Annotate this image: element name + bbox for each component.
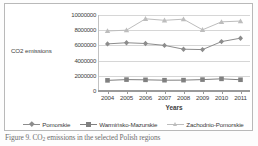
legend-label: Zachodnio-Pomorskie <box>186 121 243 128</box>
series-pomorskie <box>105 35 243 52</box>
data-point-marker <box>181 47 186 52</box>
y-tick-label: 6000000 <box>50 42 96 48</box>
legend-label: Pomorskie <box>42 121 70 128</box>
data-point-marker <box>124 40 129 45</box>
data-point-marker <box>181 78 186 83</box>
legend-marker-icon <box>167 121 184 128</box>
legend-marker-icon <box>80 121 97 128</box>
plot-area <box>98 15 250 91</box>
x-axis-title: Years <box>98 104 250 112</box>
data-point-marker <box>162 78 167 83</box>
caption-prefix: Figure 9. CO <box>5 133 43 142</box>
legend-label: Warmińsko-Mazurskie <box>99 121 157 128</box>
legend-marker-icon <box>23 121 40 128</box>
y-tick-label: 2000000 <box>50 73 96 79</box>
data-point-marker <box>219 77 224 82</box>
data-point-marker <box>162 43 167 48</box>
legend-item-warmi-sko-mazurskie[interactable]: Warmińsko-Mazurskie <box>80 121 157 128</box>
data-point-marker <box>219 39 224 44</box>
chart-legend: PomorskieWarmińsko-MazurskieZachodnio-Po… <box>9 117 258 131</box>
series-line <box>108 19 241 31</box>
y-tick-label: 0 <box>50 88 96 94</box>
data-point-marker <box>200 47 205 52</box>
data-point-marker <box>124 77 129 82</box>
legend-item-zachodnio-pomorskie[interactable]: Zachodnio-Pomorskie <box>167 121 243 128</box>
data-point-marker <box>200 77 205 82</box>
chart-frame: CO2 emissions 10000000800000060000004000… <box>4 3 253 131</box>
series-plot <box>98 15 250 91</box>
figure-container: CO2 emissions 10000000800000060000004000… <box>0 0 258 146</box>
data-point-marker <box>143 41 148 46</box>
gridline <box>98 91 250 92</box>
figure-caption: Figure 9. CO2 emissions in the selected … <box>5 133 255 144</box>
data-point-marker <box>105 41 110 46</box>
y-tick-label: 10000000 <box>50 12 96 18</box>
x-tick-label: 2011 <box>229 94 253 101</box>
caption-suffix: emissions in the selected Polish regions <box>45 133 160 142</box>
series-zachodnio-pomorskie <box>105 16 243 33</box>
data-point-marker <box>105 78 110 83</box>
data-point-marker <box>238 77 243 82</box>
legend-item-pomorskie[interactable]: Pomorskie <box>23 121 70 128</box>
y-axis-tick-labels: 1000000080000006000000400000020000000 <box>46 15 96 91</box>
series-warmi-sko-mazurskie <box>105 77 243 83</box>
data-point-marker <box>238 35 243 40</box>
y-tick-label: 8000000 <box>50 27 96 33</box>
data-point-marker <box>143 78 148 83</box>
x-axis-tick-labels: 20042005200620072008200920102011 <box>98 94 250 104</box>
y-tick-label: 4000000 <box>50 58 96 64</box>
